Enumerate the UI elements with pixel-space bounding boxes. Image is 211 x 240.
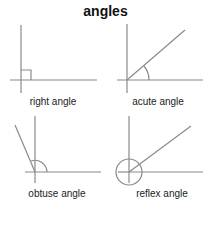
acute-angle-figure: [117, 24, 203, 93]
reflex-angle-figure: [116, 116, 203, 185]
obtuse-angle-label: obtuse angle: [7, 188, 107, 199]
acute-angle-label: acute angle: [108, 96, 208, 107]
right-angle-label: right angle: [3, 96, 103, 107]
right-angle-figure: [10, 25, 97, 93]
reflex-angle-label: reflex angle: [112, 188, 211, 199]
obtuse-angle-figure: [15, 116, 101, 183]
